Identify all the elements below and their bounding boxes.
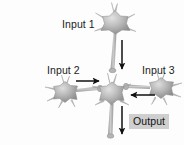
input-3-label: Input 3 <box>142 64 175 76</box>
input-3-dendrite-bottom-left <box>152 97 157 105</box>
input-1-label: Input 1 <box>62 18 95 30</box>
input-3-neuron <box>123 71 182 105</box>
input-2-label: Input 2 <box>47 64 80 76</box>
central-dendrite-lower-right <box>120 100 129 105</box>
input-2-dendrite-bottom-right <box>71 100 75 108</box>
input-2-neuron <box>45 75 103 108</box>
input-3-dendrite-bottom <box>163 98 167 106</box>
central-dendrite-top <box>108 73 117 83</box>
output-label: Output <box>129 114 169 129</box>
input-1-axon-terminal <box>109 68 116 72</box>
central-neuron <box>92 73 131 138</box>
input-1-neuron <box>95 3 137 73</box>
input-3-dendrite-right <box>172 83 182 87</box>
neuron-diagram: Input 1 Input 2 Input 3 Output <box>0 0 184 145</box>
input-1-dendrite-top <box>112 3 118 13</box>
central-axon-terminal <box>107 134 114 138</box>
central-axon <box>108 104 114 135</box>
input-2-dendrite-bottom <box>59 100 64 108</box>
input-3-axon <box>127 85 150 90</box>
input-1-soma <box>101 11 130 35</box>
input-2-soma <box>54 82 78 103</box>
input-1-axon <box>111 33 117 70</box>
